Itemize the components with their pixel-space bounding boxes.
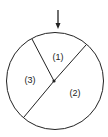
- region-label-3: (3): [25, 75, 36, 85]
- spinner-diagram: (1) (2) (3): [0, 0, 108, 137]
- divider-1-2: [54, 45, 86, 81]
- pointer-arrow-icon: [56, 10, 61, 29]
- region-label-1: (1): [53, 52, 64, 62]
- region-label-2: (2): [70, 88, 81, 98]
- divider-2-3: [24, 81, 54, 117]
- center-pin: [52, 79, 55, 82]
